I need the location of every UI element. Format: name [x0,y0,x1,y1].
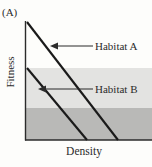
x-axis-label: Density [25,145,143,157]
series-label-habitat-b: Habitat B [95,83,137,95]
figure-panel-a: (A) Fitness Density Habitat A Habitat B [0,0,152,167]
y-axis-label: Fitness [4,46,16,98]
series-label-habitat-a: Habitat A [95,40,137,52]
arrow-habitat-a-icon [50,43,93,50]
lower-shaded-band [25,108,152,140]
